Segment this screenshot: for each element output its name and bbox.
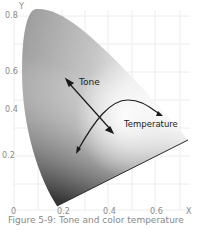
y-tick: 0.6 <box>5 68 18 76</box>
temperature-label: Temperature <box>124 120 178 129</box>
y-tick: 0.4 <box>5 106 18 114</box>
tone-label: Tone <box>79 78 100 87</box>
chromaticity-figure: Y 0.8 0.6 0.4 0.2 0 0.2 0.4 0.6 X Tone T… <box>0 0 199 230</box>
x-axis-label: X <box>186 208 191 216</box>
figure-caption: Figure 5-9: Tone and color temperature <box>8 215 184 225</box>
gamut-shape <box>22 9 188 206</box>
chromaticity-diagram <box>0 0 199 230</box>
y-tick: 0.2 <box>2 152 15 160</box>
y-tick: 0.8 <box>5 12 18 20</box>
y-axis-label: Y <box>19 3 24 11</box>
